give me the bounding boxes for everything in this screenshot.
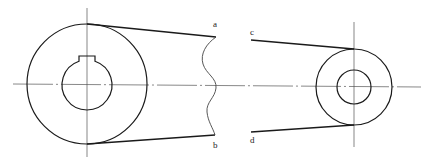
label-c: c xyxy=(250,27,254,37)
belt-drive-diagram: a b c d xyxy=(0,0,431,163)
belt-lower-right-segment xyxy=(251,125,354,132)
label-a: a xyxy=(213,19,217,29)
break-line xyxy=(202,37,216,135)
belt-upper-left-segment xyxy=(87,24,216,37)
belt-upper-right-segment xyxy=(251,40,354,49)
label-b: b xyxy=(213,140,218,150)
horizontal-center-line xyxy=(13,84,421,87)
belt-lower-left-segment xyxy=(87,135,215,144)
label-d: d xyxy=(250,135,255,145)
